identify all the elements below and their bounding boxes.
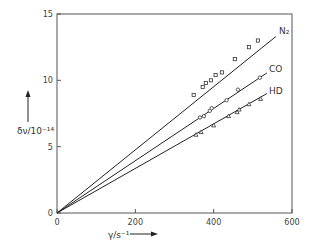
x-axis-arrow-icon — [130, 232, 158, 237]
x-tick-label: 0 — [54, 217, 59, 227]
data-points — [192, 39, 263, 136]
data-point — [220, 71, 223, 74]
x-axis-label: γ/s⁻¹ — [108, 230, 130, 240]
y-axis-arrow-icon — [26, 90, 31, 122]
data-point — [209, 79, 212, 82]
x-tick-label: 400 — [206, 217, 221, 227]
data-point — [212, 123, 216, 127]
data-point — [192, 93, 195, 96]
y-tick-label: 10 — [43, 75, 53, 85]
data-point — [204, 81, 207, 84]
series-label-n2: N₂ — [279, 26, 290, 36]
data-point — [247, 46, 250, 49]
series-label-co: CO — [269, 64, 282, 74]
data-point — [201, 85, 204, 88]
data-point — [258, 76, 261, 79]
plot-frame — [57, 14, 292, 213]
series-label-hd: HD — [269, 86, 283, 96]
x-tick-label: 200 — [128, 217, 143, 227]
data-point — [214, 73, 217, 76]
y-tick-label: 15 — [43, 9, 53, 19]
axes: 0200400600051015 — [43, 9, 300, 227]
chart: 0200400600051015 N₂ CO HD δν/10⁻¹⁴ γ/s⁻¹ — [0, 0, 311, 250]
y-tick-label: 0 — [48, 208, 53, 218]
y-tick-label: 5 — [48, 142, 53, 152]
data-point — [256, 39, 259, 42]
data-point — [225, 99, 228, 102]
data-point — [236, 88, 239, 91]
fit-line — [57, 36, 276, 213]
fit-line — [57, 73, 267, 213]
data-point — [233, 58, 236, 61]
fit-line — [57, 94, 267, 213]
data-point — [198, 116, 201, 119]
data-point — [210, 106, 213, 109]
y-axis-label: δν/10⁻¹⁴ — [17, 126, 54, 136]
x-tick-label: 600 — [284, 217, 299, 227]
data-point — [202, 114, 205, 117]
fit-lines — [57, 36, 276, 213]
